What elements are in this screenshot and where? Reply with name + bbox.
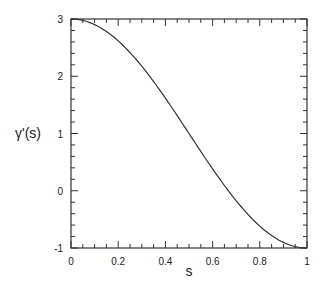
x-axis-label: s xyxy=(186,263,193,279)
x-tick-label: 0.4 xyxy=(158,256,172,267)
y-axis-label: γ'(s) xyxy=(15,125,41,141)
y-tick-label: -1 xyxy=(54,243,63,254)
data-line xyxy=(71,19,307,248)
x-tick-label: 0.8 xyxy=(253,256,267,267)
x-tick-label: 1 xyxy=(304,256,310,267)
y-tick-label: 1 xyxy=(57,129,63,140)
y-tick-label: 0 xyxy=(57,186,63,197)
x-tick-label: 0.2 xyxy=(111,256,125,267)
y-tick-label: 3 xyxy=(57,14,63,25)
x-tick-label: 0.6 xyxy=(206,256,220,267)
x-tick-label: 0 xyxy=(68,256,74,267)
line-chart: 00.20.40.60.81-10123 s γ'(s) xyxy=(0,0,320,292)
y-tick-label: 2 xyxy=(57,71,63,82)
tick-labels: 00.20.40.60.81-10123 xyxy=(54,14,310,267)
